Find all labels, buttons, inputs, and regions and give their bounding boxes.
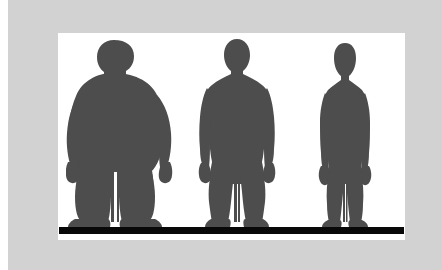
white-illustration-panel	[58, 33, 405, 240]
ground-line	[59, 227, 404, 234]
figure-average	[198, 38, 276, 228]
figure-obese	[66, 38, 184, 228]
gray-border-frame	[8, 0, 442, 270]
figure-slim	[314, 42, 376, 228]
image-canvas	[0, 0, 442, 270]
